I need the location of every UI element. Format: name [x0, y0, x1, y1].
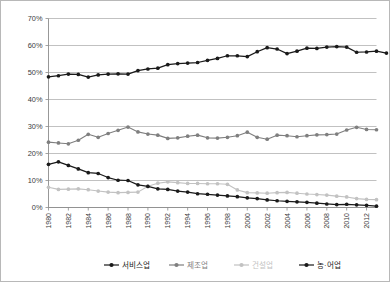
data-point — [265, 46, 269, 50]
data-point — [96, 73, 100, 77]
data-point — [245, 55, 249, 59]
data-point — [76, 187, 80, 191]
data-point — [295, 135, 299, 139]
data-point — [106, 190, 110, 194]
data-point — [305, 134, 309, 138]
data-point — [255, 50, 259, 54]
data-point — [285, 134, 289, 138]
data-point — [176, 189, 180, 193]
data-point — [355, 203, 359, 207]
data-point — [116, 191, 120, 195]
data-point — [355, 50, 359, 54]
data-point — [325, 193, 329, 197]
data-point — [166, 63, 170, 67]
data-point — [285, 52, 289, 56]
data-point — [345, 128, 349, 132]
x-tick-label: 1996 — [204, 213, 211, 229]
chart-plot-area: 0%10%20%30%40%50%60%70%19801982198419861… — [1, 1, 390, 282]
data-point — [67, 164, 71, 168]
data-point — [176, 136, 180, 140]
data-point — [216, 193, 220, 197]
data-point — [226, 182, 230, 186]
data-point — [57, 141, 61, 145]
data-point — [176, 62, 180, 66]
x-tick-label: 1984 — [85, 213, 92, 229]
data-point — [57, 188, 61, 192]
x-tick-label: 1982 — [65, 213, 72, 229]
data-point — [275, 199, 279, 203]
data-point — [235, 188, 239, 192]
data-point — [245, 196, 249, 200]
data-point — [265, 191, 269, 195]
data-point — [86, 132, 90, 136]
data-point — [255, 197, 259, 201]
y-tick-label: 60% — [28, 41, 43, 50]
data-point — [126, 125, 130, 129]
data-point — [76, 167, 80, 171]
data-point — [355, 125, 359, 129]
x-tick-label: 2006 — [304, 213, 311, 229]
data-point — [305, 192, 309, 196]
data-point — [196, 61, 200, 65]
data-point — [126, 191, 130, 195]
data-point — [47, 185, 51, 189]
data-point — [126, 179, 130, 183]
x-tick-label: 1980 — [45, 213, 52, 229]
data-point — [116, 72, 120, 76]
x-tick-label: 2004 — [284, 213, 291, 229]
data-point — [156, 66, 160, 70]
data-point — [315, 133, 319, 137]
chart-container: 0%10%20%30%40%50%60%70%19801982198419861… — [0, 0, 390, 282]
data-point — [335, 45, 339, 49]
data-point — [335, 132, 339, 136]
data-point — [176, 181, 180, 185]
data-point — [226, 135, 230, 139]
x-tick-label: 1990 — [144, 213, 151, 229]
data-point — [275, 133, 279, 137]
y-tick-label: 70% — [28, 14, 43, 23]
data-point — [365, 198, 369, 202]
data-point — [146, 185, 150, 189]
data-point — [186, 61, 190, 65]
data-point — [335, 203, 339, 207]
data-point — [235, 54, 239, 58]
x-tick-label: 1988 — [125, 213, 132, 229]
data-point — [57, 74, 61, 78]
data-point — [226, 194, 230, 198]
data-point — [226, 54, 230, 58]
data-point — [335, 194, 339, 198]
data-point — [235, 134, 239, 138]
data-point — [126, 72, 130, 76]
data-point — [375, 204, 379, 208]
data-point — [196, 133, 200, 137]
data-point — [67, 142, 71, 146]
data-point — [136, 183, 140, 187]
data-point — [206, 59, 210, 63]
data-point — [96, 135, 100, 139]
x-tick-label: 2000 — [244, 213, 251, 229]
x-tick-label: 2012 — [363, 213, 370, 229]
data-point — [325, 45, 329, 49]
data-point — [67, 72, 71, 76]
data-point — [86, 171, 90, 175]
data-point — [325, 202, 329, 206]
data-point — [285, 191, 289, 195]
data-point — [166, 137, 170, 141]
legend-marker-1 — [109, 263, 113, 267]
y-tick-label: 0% — [32, 203, 43, 212]
data-point — [235, 195, 239, 199]
data-point — [47, 140, 51, 144]
data-point — [76, 73, 80, 77]
data-point — [116, 128, 120, 132]
data-point — [325, 133, 329, 137]
legend-marker-2 — [174, 263, 178, 267]
data-point — [106, 72, 110, 76]
data-point — [245, 191, 249, 195]
data-point — [345, 195, 349, 199]
data-point — [106, 132, 110, 136]
data-point — [106, 176, 110, 180]
legend-marker-3 — [239, 263, 243, 267]
data-point — [86, 188, 90, 192]
data-point — [216, 57, 220, 61]
data-point — [136, 190, 140, 194]
